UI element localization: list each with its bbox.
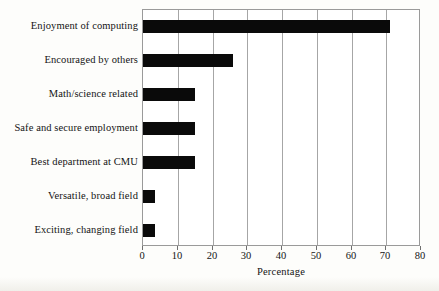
bar	[143, 88, 195, 101]
tick-label: 20	[197, 250, 227, 262]
category-label: Safe and secure employment	[0, 122, 138, 134]
category-label: Enjoyment of computing	[0, 20, 138, 32]
bar	[143, 122, 195, 135]
tick-label: 60	[336, 250, 366, 262]
category-label: Encouraged by others	[0, 54, 138, 66]
gridline-20	[213, 10, 214, 245]
bar	[143, 190, 155, 203]
tick-label: 30	[231, 250, 261, 262]
gridline-30	[247, 10, 248, 245]
tick-label: 40	[266, 250, 296, 262]
x-axis-title: Percentage	[142, 266, 420, 278]
plot-area	[142, 9, 420, 246]
category-label: Math/science related	[0, 88, 138, 100]
bar	[143, 224, 155, 237]
tick-label: 70	[370, 250, 400, 262]
tick-label: 10	[162, 250, 192, 262]
tick-label: 0	[127, 250, 157, 262]
bar	[143, 156, 195, 169]
gridline-50	[317, 10, 318, 245]
category-label: Best department at CMU	[0, 156, 138, 168]
gridline-40	[282, 10, 283, 245]
bar	[143, 54, 233, 67]
category-label: Exciting, changing field	[0, 224, 138, 236]
tick-label: 50	[301, 250, 331, 262]
gridline-60	[352, 10, 353, 245]
bar	[143, 20, 390, 33]
chart-page: Enjoyment of computingEncouraged by othe…	[0, 0, 439, 291]
gridline-70	[386, 10, 387, 245]
tick-label: 80	[405, 250, 435, 262]
category-label: Versatile, broad field	[0, 190, 138, 202]
